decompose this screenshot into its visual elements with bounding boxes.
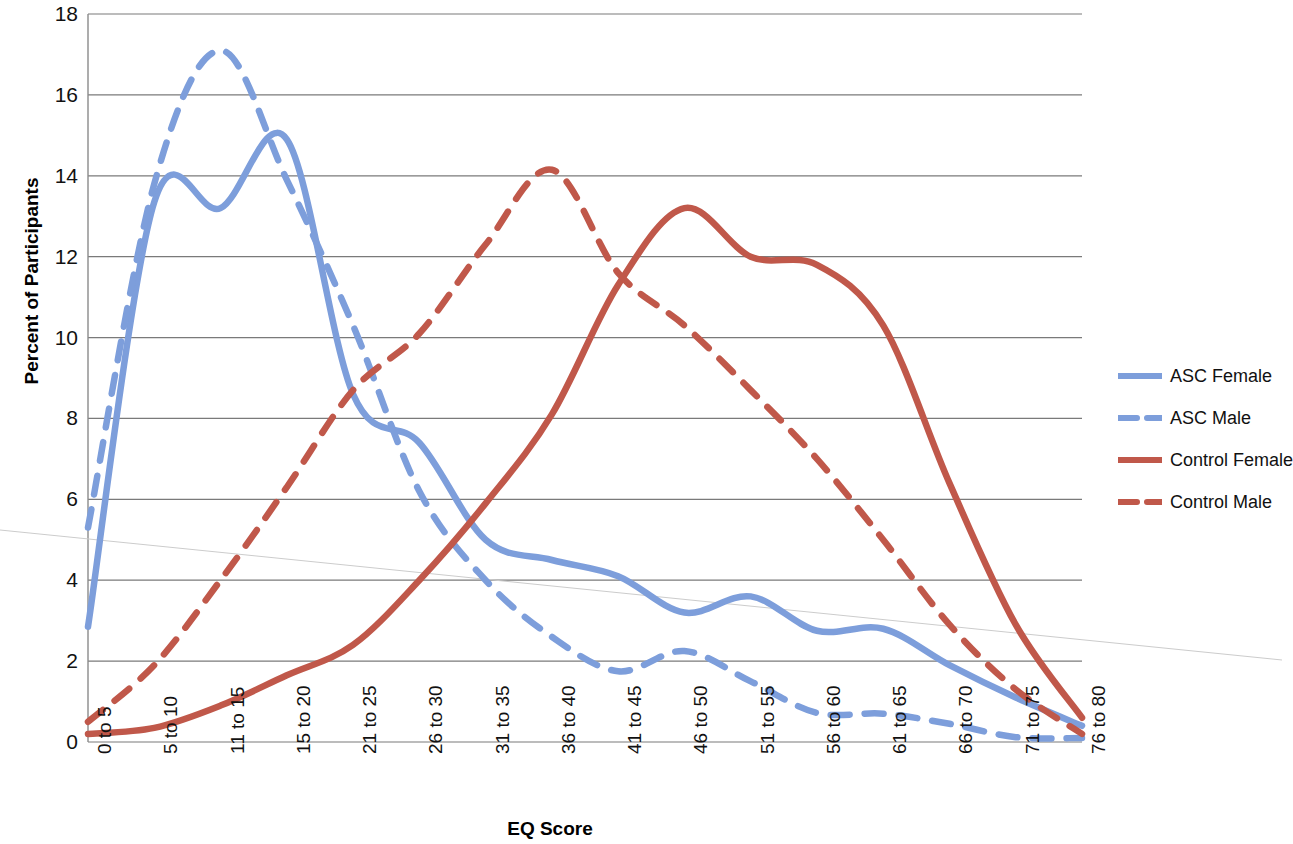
x-tick-label: 66 to 70 xyxy=(956,674,975,754)
x-tick-label: 56 to 60 xyxy=(824,674,843,754)
series-line-asc-female xyxy=(88,133,1082,726)
x-axis-ticks: 0 to 55 to 1011 to 1515 to 2021 to 2526 … xyxy=(88,748,1082,828)
x-tick-label: 11 to 15 xyxy=(228,674,247,754)
legend-item[interactable]: ASC Female xyxy=(1118,355,1282,397)
legend-item-label: Control Male xyxy=(1170,492,1272,513)
x-tick-label: 51 to 55 xyxy=(758,674,777,754)
legend-item-label: ASC Female xyxy=(1170,366,1272,387)
chart-legend: ASC FemaleASC MaleControl FemaleControl … xyxy=(1118,355,1282,523)
y-axis-title: Percent of Participants xyxy=(21,161,43,401)
legend-swatch-icon xyxy=(1118,411,1162,425)
legend-swatch-icon xyxy=(1118,369,1162,383)
x-tick-label: 41 to 45 xyxy=(625,674,644,754)
y-tick-label: 8 xyxy=(20,407,78,428)
legend-swatch-icon xyxy=(1118,495,1162,509)
legend-item-label: ASC Male xyxy=(1170,408,1251,429)
x-tick-label: 26 to 30 xyxy=(426,674,445,754)
x-tick-label: 21 to 25 xyxy=(360,674,379,754)
gridlines xyxy=(88,14,1082,742)
x-axis-title: EQ Score xyxy=(0,818,1100,840)
y-tick-label: 4 xyxy=(20,569,78,590)
y-tick-label: 18 xyxy=(20,3,78,24)
x-tick-label: 31 to 35 xyxy=(493,674,512,754)
series-line-asc-male xyxy=(88,50,1082,738)
legend-item-label: Control Female xyxy=(1170,450,1293,471)
series-line-control-male xyxy=(88,169,1082,733)
y-tick-label: 16 xyxy=(20,84,78,105)
legend-item[interactable]: ASC Male xyxy=(1118,397,1282,439)
scan-artifact-line xyxy=(0,530,1282,660)
y-tick-label: 6 xyxy=(20,488,78,509)
x-tick-label: 0 to 5 xyxy=(95,674,114,754)
x-tick-label: 5 to 10 xyxy=(161,674,180,754)
x-tick-label: 46 to 50 xyxy=(691,674,710,754)
y-tick-label: 0 xyxy=(20,731,78,752)
legend-item[interactable]: Control Male xyxy=(1118,481,1282,523)
x-tick-label: 71 to 75 xyxy=(1023,674,1042,754)
x-tick-label: 61 to 65 xyxy=(890,674,909,754)
series-layer xyxy=(88,50,1082,738)
legend-item[interactable]: Control Female xyxy=(1118,439,1282,481)
x-tick-label: 15 to 20 xyxy=(294,674,313,754)
legend-swatch-icon xyxy=(1118,453,1162,467)
y-tick-label: 2 xyxy=(20,650,78,671)
x-tick-label: 76 to 80 xyxy=(1089,674,1108,754)
x-tick-label: 36 to 40 xyxy=(559,674,578,754)
